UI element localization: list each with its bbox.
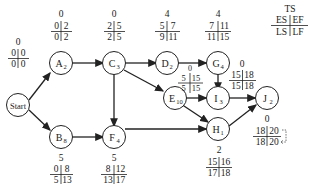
ef-value: 15 <box>192 73 201 83</box>
node-j-label: J <box>263 93 267 104</box>
ls-value: 15 <box>231 81 241 91</box>
node-c-label: C <box>109 58 116 69</box>
node-b: B 8 <box>50 126 73 149</box>
table-d: 4 5 7 9 11 <box>155 9 180 42</box>
legend-ls: LS <box>276 27 287 37</box>
node-c: C 3 <box>103 52 126 75</box>
node-e-duration: 10 <box>176 98 183 105</box>
edge-start-b <box>29 110 50 130</box>
ts-value: 0 <box>112 9 117 19</box>
node-h-label: H <box>212 124 219 135</box>
legend: TS ES EF LS LF <box>271 4 308 37</box>
table-b: 5 0 8 5 13 <box>50 153 73 184</box>
node-e-label: E <box>169 93 175 104</box>
node-h: H 1 <box>207 118 230 141</box>
ts-value: 2 <box>217 145 222 155</box>
lf-value: 0 <box>21 59 26 69</box>
node-a-duration: 2 <box>63 63 66 70</box>
edge-e-h <box>181 104 208 122</box>
lf-value: 17 <box>116 175 126 184</box>
es-value: 15 <box>231 70 241 80</box>
ef-value: 0 <box>21 48 26 58</box>
ls-value: 0 <box>11 59 16 69</box>
ls-value: 2 <box>107 32 112 42</box>
edge-h-j <box>229 105 256 126</box>
node-start-label: Start <box>10 101 27 111</box>
ef-value: 2 <box>64 21 69 31</box>
table-e: 0 5 15 5 15 <box>178 64 203 93</box>
ts-value: 0 <box>59 9 64 19</box>
lf-value: 18 <box>221 168 231 178</box>
node-f: F 4 <box>103 126 126 149</box>
table-c: 0 2 5 2 5 <box>104 9 125 42</box>
es-value: 2 <box>107 21 112 31</box>
ls-value: 11 <box>207 32 216 42</box>
ef-value: 12 <box>116 164 126 174</box>
ef-value: 11 <box>220 21 229 31</box>
table-a: 0 0 2 0 2 <box>51 9 72 42</box>
ls-value: 17 <box>208 168 218 178</box>
ef-value: 8 <box>65 164 70 174</box>
es-value: 15 <box>208 157 218 167</box>
es-value: 8 <box>106 164 111 174</box>
table-i: 0 15 18 15 18 <box>229 59 256 91</box>
node-b-label: B <box>56 132 63 143</box>
es-value: 0 <box>11 48 16 58</box>
ts-value: 0 <box>188 64 192 73</box>
ef-value: 5 <box>117 21 122 31</box>
es-value: 0 <box>54 164 59 174</box>
lf-value: 11 <box>168 32 177 42</box>
lf-value: 5 <box>117 32 122 42</box>
ef-value: 20 <box>269 126 279 136</box>
ts-value: 5 <box>59 153 64 163</box>
node-c-duration: 3 <box>116 63 119 70</box>
edge-start-a <box>29 73 50 100</box>
node-i-label: I <box>214 93 217 104</box>
es-value: 0 <box>54 21 59 31</box>
table-j: 0 18 20 18 20 <box>253 114 286 147</box>
node-j-duration: 2 <box>269 98 272 105</box>
legend-lf: LF <box>292 27 303 37</box>
ef-value: 7 <box>171 21 176 31</box>
ls-value: 13 <box>103 175 113 184</box>
loop-arrow-icon <box>282 130 286 142</box>
es-value: 18 <box>256 126 266 136</box>
table-h: 2 15 16 17 18 <box>206 145 232 178</box>
node-start: Start <box>7 94 30 117</box>
lf-value: 13 <box>62 175 72 184</box>
node-d-label: D <box>161 58 168 69</box>
table-start: 0 0 0 0 0 <box>8 37 29 69</box>
node-i-duration: 3 <box>219 98 222 105</box>
ls-value: 5 <box>54 175 59 184</box>
ls-value: 18 <box>256 137 266 147</box>
table-f: 5 8 12 13 17 <box>101 153 127 184</box>
es-value: 5 <box>160 21 165 31</box>
lf-value: 18 <box>244 81 254 91</box>
node-b-duration: 8 <box>63 137 66 144</box>
ef-value: 16 <box>221 157 231 167</box>
node-h-duration: 1 <box>220 129 223 136</box>
network-diagram: Start 0 0 0 0 0 A 2 0 0 2 0 2 B 8 5 0 8 … <box>0 0 314 184</box>
edge-c-e <box>124 70 163 91</box>
es-value: 7 <box>209 21 214 31</box>
lf-value: 15 <box>192 83 201 93</box>
lf-value: 20 <box>269 137 279 147</box>
node-j: J 2 <box>256 87 279 110</box>
node-i: I 3 <box>207 87 230 110</box>
node-a-label: A <box>55 58 63 69</box>
ls-value: 0 <box>54 32 59 42</box>
ts-value: 0 <box>240 59 245 69</box>
ts-value: 4 <box>165 9 170 19</box>
ts-value: 0 <box>265 114 270 124</box>
ts-value: 4 <box>216 9 221 19</box>
node-d-duration: 2 <box>169 63 172 70</box>
lf-value: 2 <box>64 32 69 42</box>
node-g: G 4 <box>207 52 230 75</box>
ts-value: 5 <box>112 153 117 163</box>
ls-value: 5 <box>181 83 185 93</box>
node-d: D 2 <box>156 52 179 75</box>
lf-value: 15 <box>220 32 230 42</box>
table-g: 4 7 11 11 15 <box>205 9 231 42</box>
legend-ef: EF <box>292 15 303 25</box>
node-g-label: G <box>212 58 219 69</box>
